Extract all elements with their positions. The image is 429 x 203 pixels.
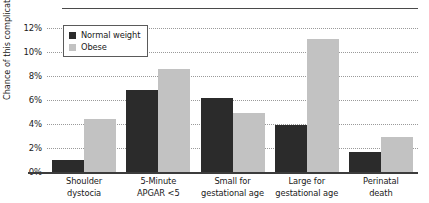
legend-label: Obese <box>81 42 107 52</box>
x-tick-label: 5-MinuteAPGAR <5 <box>121 176 195 202</box>
y-tick-label: 8% <box>29 71 42 81</box>
bar <box>381 137 413 172</box>
bar <box>84 119 116 172</box>
bar-group <box>195 28 269 172</box>
bar <box>349 152 381 172</box>
x-tick-label: Shoulderdystocia <box>47 176 121 202</box>
bar <box>158 69 190 172</box>
y-tick-label: 12% <box>23 23 42 33</box>
bar <box>307 39 339 172</box>
bar <box>126 90 158 172</box>
y-tick-label: 10% <box>23 47 42 57</box>
bar-pair <box>270 28 344 172</box>
bar-pair <box>344 28 418 172</box>
legend-item[interactable]: Obese <box>69 41 140 53</box>
chart-legend: Normal weightObese <box>63 25 148 57</box>
x-tick-label: Perinataldeath <box>344 176 418 202</box>
y-axis-title: Chance of this complication <box>2 0 12 100</box>
legend-item[interactable]: Normal weight <box>69 29 140 41</box>
legend-swatch-icon <box>69 44 76 51</box>
y-tick-label: 2% <box>29 143 42 153</box>
bar-group <box>270 28 344 172</box>
bar-pair <box>195 28 269 172</box>
x-axis-tick-labels: Shoulderdystocia5-MinuteAPGAR <5Small fo… <box>47 176 418 202</box>
y-tick-label: 4% <box>29 119 42 129</box>
bar <box>201 98 233 172</box>
x-axis-line <box>28 172 418 174</box>
y-tick-label: 6% <box>29 95 42 105</box>
legend-swatch-icon <box>69 32 76 39</box>
chart-figure: Chance of this complication 0%2%4%6%8%10… <box>0 0 429 203</box>
top-divider-rule <box>62 8 418 9</box>
bar <box>233 113 265 172</box>
x-tick-label: Large forgestational age <box>270 176 344 202</box>
bar <box>52 160 84 172</box>
bar <box>275 125 307 172</box>
legend-label: Normal weight <box>81 30 140 40</box>
bar-group <box>344 28 418 172</box>
x-tick-label: Small forgestational age <box>195 176 269 202</box>
